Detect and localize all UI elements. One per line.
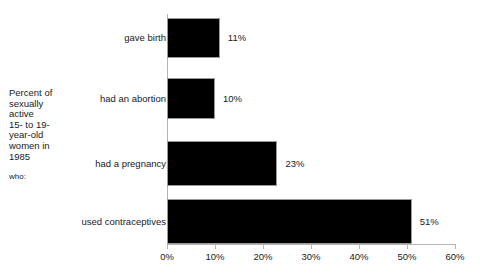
bar	[167, 199, 412, 244]
x-tick-label: 20%	[253, 251, 272, 262]
x-tick-30%	[311, 244, 312, 249]
bar-value-label: 10%	[223, 93, 242, 104]
bar-row: had an abortion10%	[0, 78, 480, 119]
bar-row: used contraceptives51%	[0, 199, 480, 244]
x-tick-0%	[167, 244, 168, 249]
bar-row: had a pregnancy23%	[0, 141, 480, 186]
bar-row: gave birth11%	[0, 18, 480, 58]
category-label: had a pregnancy	[95, 158, 166, 169]
x-tick-label: 30%	[301, 251, 320, 262]
category-label: gave birth	[124, 32, 166, 43]
category-label: had an abortion	[100, 93, 166, 104]
x-tick-label: 40%	[349, 251, 368, 262]
bar	[167, 18, 220, 58]
bar-chart: Percent of sexually active 15- to 19- ye…	[0, 0, 480, 280]
x-tick-60%	[455, 244, 456, 249]
x-tick-label: 10%	[205, 251, 224, 262]
x-tick-10%	[215, 244, 216, 249]
bar	[167, 78, 215, 119]
bar-value-label: 51%	[420, 216, 439, 227]
x-tick-label: 60%	[445, 251, 464, 262]
bar-value-label: 11%	[228, 32, 246, 43]
x-tick-50%	[407, 244, 408, 249]
category-label: used contraceptives	[82, 216, 167, 227]
x-tick-label: 0%	[160, 251, 174, 262]
bar-value-label: 23%	[285, 158, 304, 169]
bar	[167, 141, 277, 186]
x-tick-40%	[359, 244, 360, 249]
x-tick-label: 50%	[397, 251, 416, 262]
x-tick-20%	[263, 244, 264, 249]
